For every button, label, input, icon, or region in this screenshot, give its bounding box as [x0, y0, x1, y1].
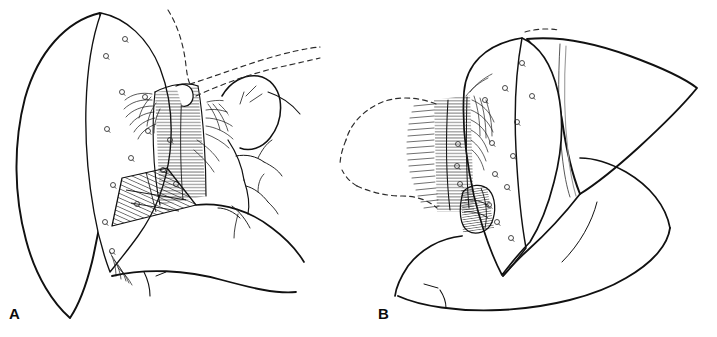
panel-label-b: B	[378, 306, 389, 321]
illustration-canvas	[0, 0, 717, 337]
figure-root: A B	[0, 0, 717, 337]
panel-label-a: A	[9, 306, 20, 321]
